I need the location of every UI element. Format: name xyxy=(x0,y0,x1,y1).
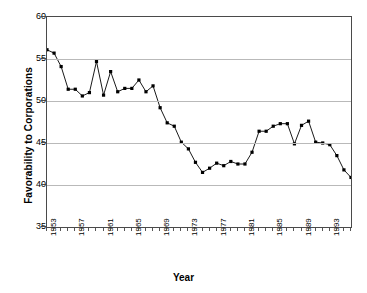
data-point-marker xyxy=(137,78,140,81)
data-point-marker xyxy=(201,171,204,174)
x-tick-mark xyxy=(180,228,181,231)
gridline xyxy=(47,143,351,144)
x-tick-mark xyxy=(60,228,61,231)
x-tick-mark xyxy=(81,228,82,231)
data-point-marker xyxy=(173,125,176,128)
data-point-marker xyxy=(74,88,77,91)
data-point-marker xyxy=(272,125,275,128)
series-line xyxy=(47,50,351,178)
data-point-marker xyxy=(47,48,49,51)
x-tick-mark xyxy=(103,228,104,231)
x-tick-mark xyxy=(308,228,309,231)
data-point-marker xyxy=(243,162,246,165)
chart-figure: Favorability to Corporations 60555045403… xyxy=(0,0,367,293)
x-tick-mark xyxy=(230,228,231,231)
x-tick-mark xyxy=(53,228,54,231)
x-tick-mark xyxy=(131,228,132,231)
x-tick-mark xyxy=(272,228,273,231)
gridline xyxy=(47,185,351,186)
x-tick-mark xyxy=(216,228,217,231)
x-tick-mark xyxy=(265,228,266,231)
x-tick-mark xyxy=(209,228,210,231)
data-point-marker xyxy=(236,162,239,165)
line-chart-svg xyxy=(47,17,351,227)
x-axis-title: Year xyxy=(0,272,367,283)
x-tick-mark xyxy=(343,228,344,231)
data-point-marker xyxy=(265,130,268,133)
x-tick-mark xyxy=(173,228,174,231)
data-point-marker xyxy=(116,90,119,93)
data-point-marker xyxy=(187,147,190,150)
data-point-marker xyxy=(52,52,55,55)
gridline xyxy=(47,59,351,60)
x-tick-mark xyxy=(194,228,195,231)
x-tick-mark xyxy=(336,228,337,231)
x-tick-mark xyxy=(322,228,323,231)
x-tick-mark xyxy=(124,228,125,231)
x-tick-mark xyxy=(74,228,75,231)
x-tick-mark xyxy=(187,228,188,231)
data-point-marker xyxy=(335,154,338,157)
x-tick-mark xyxy=(110,228,111,231)
data-point-marker xyxy=(349,176,351,179)
x-tick-mark xyxy=(202,228,203,231)
x-tick-mark xyxy=(138,228,139,231)
data-point-marker xyxy=(208,167,211,170)
x-tick-mark xyxy=(117,228,118,231)
data-point-marker xyxy=(102,94,105,97)
x-tick-mark xyxy=(293,228,294,231)
data-point-marker xyxy=(159,106,162,109)
data-point-marker xyxy=(88,91,91,94)
x-tick-mark xyxy=(237,228,238,231)
data-point-marker xyxy=(109,70,112,73)
data-point-marker xyxy=(151,84,154,87)
data-point-marker xyxy=(222,164,225,167)
data-point-marker xyxy=(229,160,232,163)
data-point-marker xyxy=(215,162,218,165)
data-point-marker xyxy=(250,151,253,154)
x-tick-mark xyxy=(329,228,330,231)
x-tick-mark xyxy=(258,228,259,231)
data-point-marker xyxy=(300,124,303,127)
series-markers xyxy=(47,48,351,179)
data-point-marker xyxy=(81,94,84,97)
data-point-marker xyxy=(130,87,133,90)
x-tick-mark xyxy=(88,228,89,231)
x-tick-mark xyxy=(145,228,146,231)
x-tick-mark xyxy=(166,228,167,231)
x-tick-mark xyxy=(286,228,287,231)
x-tick-mark xyxy=(279,228,280,231)
plot-area xyxy=(46,16,352,228)
data-point-marker xyxy=(279,122,282,125)
data-point-marker xyxy=(194,161,197,164)
x-tick-mark xyxy=(315,228,316,231)
x-tick-mark xyxy=(251,228,252,231)
data-point-marker xyxy=(123,87,126,90)
x-tick-mark xyxy=(244,228,245,231)
data-point-marker xyxy=(144,90,147,93)
y-axis-title: Favorability to Corporations xyxy=(23,56,34,216)
data-point-marker xyxy=(95,60,98,63)
data-point-marker xyxy=(67,88,70,91)
data-point-marker xyxy=(166,121,169,124)
data-point-marker xyxy=(307,120,310,123)
data-point-marker xyxy=(60,65,63,68)
x-tick-mark xyxy=(301,228,302,231)
x-tick-mark xyxy=(350,228,351,231)
x-tick-mark xyxy=(159,228,160,231)
data-point-marker xyxy=(286,122,289,125)
x-tick-mark xyxy=(152,228,153,231)
gridline xyxy=(47,101,351,102)
data-point-marker xyxy=(342,168,345,171)
x-tick-mark xyxy=(67,228,68,231)
data-point-marker xyxy=(257,130,260,133)
x-tick-mark xyxy=(95,228,96,231)
x-tick-mark xyxy=(223,228,224,231)
x-tick-mark xyxy=(46,228,47,231)
